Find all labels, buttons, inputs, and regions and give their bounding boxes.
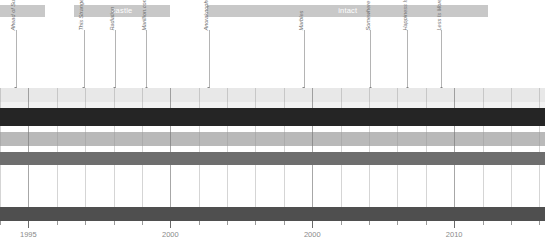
- annotation-marker[interactable]: Ahead of Sunlight: [16, 30, 17, 88]
- gridline: [341, 88, 342, 102]
- gridline: [85, 88, 86, 102]
- gridline: [142, 132, 143, 146]
- gridline: [255, 165, 256, 207]
- annotation-marker[interactable]: Somewhere Else: [370, 30, 371, 88]
- annotation-label: Ahead of Sunlight: [12, 0, 18, 31]
- gridline: [369, 132, 370, 146]
- annotation-leader-line: [16, 30, 17, 88]
- gridline: [397, 165, 398, 207]
- timeline-band[interactable]: [0, 108, 545, 126]
- gridline: [170, 165, 171, 207]
- axis-tick-label: 2000: [304, 231, 321, 239]
- gridline: [312, 165, 313, 207]
- gridline: [114, 132, 115, 146]
- annotation-marker[interactable]: Marillion.com: [146, 30, 147, 88]
- gridline: [454, 88, 455, 102]
- gridline: [199, 88, 200, 102]
- annotation-leader-line: [146, 30, 147, 88]
- gridline: [28, 88, 29, 102]
- gridline: [539, 132, 540, 146]
- axis-tick-minor: [255, 221, 256, 225]
- annotation-label: Less Is More: [437, 0, 443, 31]
- gridline: [227, 132, 228, 146]
- timeline-band[interactable]: [0, 152, 545, 165]
- gridline: [511, 132, 512, 146]
- timeline-band[interactable]: [0, 88, 545, 102]
- annotation-marker[interactable]: Less Is More: [441, 30, 442, 88]
- annotation-leader-line: [115, 30, 116, 88]
- annotation-label: Somewhere Else: [366, 0, 372, 31]
- timeline-chart: castleintact Ahead of SunlightThis Stran…: [0, 0, 545, 248]
- timeline-band[interactable]: [0, 132, 545, 146]
- gridline: [57, 132, 58, 146]
- annotation-marker[interactable]: Happiness Is the Road: [407, 30, 408, 88]
- axis-tick-minor: [341, 221, 342, 225]
- x-axis: 1995200020002010: [0, 221, 545, 248]
- axis-tick-label: 2010: [446, 231, 463, 239]
- gridline: [369, 88, 370, 102]
- gridline: [341, 165, 342, 207]
- gridline: [199, 132, 200, 146]
- axis-tick-minor: [227, 221, 228, 225]
- gridline: [312, 132, 313, 146]
- gridline: [114, 165, 115, 207]
- gridline: [426, 165, 427, 207]
- timeline-band[interactable]: [0, 207, 545, 221]
- annotation-label: This Strange Engine: [80, 0, 86, 31]
- axis-tick-minor: [0, 221, 1, 225]
- gridline: [511, 88, 512, 102]
- annotation-marker[interactable]: Radiation: [115, 30, 116, 88]
- gridline: [284, 88, 285, 102]
- annotation-leader-line: [209, 30, 210, 88]
- annotation-leader-line: [304, 30, 305, 88]
- axis-tick-minor: [142, 221, 143, 225]
- gridline: [0, 165, 1, 207]
- gridline: [199, 165, 200, 207]
- annotation-leader-line: [84, 30, 85, 88]
- annotation-label: Anoraknophobia: [205, 0, 211, 31]
- axis-tick-label: 1995: [20, 231, 37, 239]
- axis-tick-major: [28, 221, 29, 228]
- gridline: [341, 132, 342, 146]
- axis-tick-minor: [539, 221, 540, 225]
- annotation-marker[interactable]: This Strange Engine: [84, 30, 85, 88]
- axis-tick-minor: [85, 221, 86, 225]
- annotation-marker[interactable]: Anoraknophobia: [209, 30, 210, 88]
- axis-tick-minor: [199, 221, 200, 225]
- timeline-band[interactable]: [0, 165, 545, 207]
- gridline: [312, 88, 313, 102]
- gridline: [454, 165, 455, 207]
- axis-tick-major: [170, 221, 171, 228]
- axis-tick-label: 2000: [162, 231, 179, 239]
- gridline: [511, 165, 512, 207]
- axis-tick-major: [454, 221, 455, 228]
- axis-tick-major: [312, 221, 313, 228]
- gridline: [397, 132, 398, 146]
- annotation-label: Marillion.com: [142, 0, 148, 31]
- gridline: [28, 165, 29, 207]
- group-bar: [0, 5, 45, 17]
- axis-tick-minor: [369, 221, 370, 225]
- gridline: [539, 165, 540, 207]
- gridline: [369, 165, 370, 207]
- annotation-leader-line: [370, 30, 371, 88]
- gridline: [142, 88, 143, 102]
- axis-tick-minor: [511, 221, 512, 225]
- gridline: [170, 88, 171, 102]
- gridline: [539, 88, 540, 102]
- axis-tick-minor: [284, 221, 285, 225]
- gridline: [85, 165, 86, 207]
- annotation-marker[interactable]: Marbles: [304, 30, 305, 88]
- axis-tick-minor: [397, 221, 398, 225]
- annotation-label: Happiness Is the Road: [403, 0, 409, 31]
- group-bar-label: intact: [338, 7, 357, 15]
- gridline: [0, 132, 1, 146]
- gridline: [85, 132, 86, 146]
- annotation-label: Marbles: [300, 11, 306, 31]
- gridline: [28, 132, 29, 146]
- annotation-leader-line: [441, 30, 442, 88]
- gridline: [483, 88, 484, 102]
- gridline: [0, 88, 1, 102]
- axis-tick-minor: [426, 221, 427, 225]
- gridline: [397, 88, 398, 102]
